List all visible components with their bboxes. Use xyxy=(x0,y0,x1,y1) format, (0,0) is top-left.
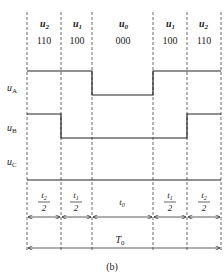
switch-code: 100 xyxy=(163,35,178,46)
vector-label: u1 xyxy=(166,18,175,31)
period-label: T0 xyxy=(115,234,125,247)
waveform-ua xyxy=(27,71,221,95)
svpwm-timing-diagram: u2 u1 u0 u1 u2 110 100 000 100 110 uA uB… xyxy=(0,0,224,274)
signal-label-ub: uB xyxy=(7,122,17,135)
signal-label-ua: uA xyxy=(7,82,17,95)
duration-denominator: 2 xyxy=(202,203,207,213)
figure-caption: (b) xyxy=(106,261,118,273)
duration-labels: t2 2 t1 2 t0 t1 2 t2 2 xyxy=(38,190,210,213)
duration-numerator: t1 xyxy=(73,190,79,201)
duration-numerator: t2 xyxy=(201,190,207,201)
switch-code: 100 xyxy=(70,35,85,46)
switch-code: 110 xyxy=(37,35,52,46)
switch-code: 000 xyxy=(116,35,131,46)
vector-label: u0 xyxy=(119,18,129,31)
switch-code: 110 xyxy=(197,35,212,46)
duration-denominator: 2 xyxy=(74,203,79,213)
duration-denominator: 2 xyxy=(42,203,47,213)
vector-label: u1 xyxy=(73,18,82,31)
waveforms xyxy=(27,71,221,180)
vector-header-row: u2 u1 u0 u1 u2 xyxy=(40,18,209,31)
duration-numerator: t1 xyxy=(167,190,173,201)
duration-denominator: 2 xyxy=(168,203,173,213)
duration-numerator: t2 xyxy=(41,190,47,201)
vector-label: u2 xyxy=(199,18,209,31)
vector-label: u2 xyxy=(40,18,50,31)
signal-label-uc: uC xyxy=(7,156,17,169)
segment-boundaries xyxy=(27,12,221,252)
waveform-ub xyxy=(27,114,221,138)
duration-label-t0: t0 xyxy=(119,197,125,208)
switch-code-row: 110 100 000 100 110 xyxy=(37,35,212,46)
